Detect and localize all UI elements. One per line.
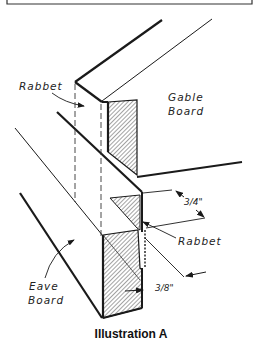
eave-end-grain (103, 230, 142, 318)
rabbet-top-label: Rabbet (19, 80, 63, 92)
gable-label-line1: Gable (168, 91, 204, 103)
eave-leader (45, 240, 74, 278)
rabbet-side-label: Rabbet (178, 235, 222, 247)
frame-border (7, 0, 252, 4)
gable-board (57, 19, 242, 192)
gable-label-line2: Board (168, 105, 204, 117)
rabbet-top-leader (52, 93, 84, 106)
eave-label-line2: Board (28, 294, 64, 306)
rabbet-side-leader (143, 222, 176, 238)
eave-label-line1: Eave (29, 280, 59, 292)
rabbet-cut-end-grain (110, 195, 140, 230)
projection-lines (75, 84, 101, 236)
rabbet-joint-illustration: 3/4" 3/8" Rabbet Gable Board Rabbet Eave… (0, 0, 257, 350)
caption: Illustration A (95, 327, 168, 341)
depth-label: 3/4" (184, 197, 203, 207)
width-label: 3/8" (155, 283, 174, 293)
dimension-depth: 3/4" (143, 190, 205, 228)
